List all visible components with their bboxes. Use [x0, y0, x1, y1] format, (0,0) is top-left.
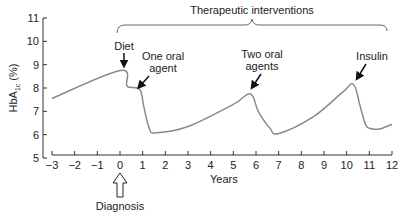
x-tick-label: 2 — [162, 159, 168, 171]
x-axis: −3−2−10123456789101112 — [46, 151, 398, 171]
x-tick-label: −1 — [91, 159, 104, 171]
therapeutic-bracket — [117, 19, 387, 33]
x-tick-label: 7 — [276, 159, 282, 171]
insulin-label: Insulin — [356, 50, 388, 62]
x-tick-label: −2 — [68, 159, 81, 171]
one-oral-label-2: agent — [149, 62, 177, 74]
one-oral-arrow-icon — [140, 76, 149, 86]
x-tick-label: 4 — [208, 159, 214, 171]
hba1c-curve — [52, 70, 392, 134]
x-tick-label: 0 — [117, 159, 123, 171]
y-tick-label: 11 — [28, 12, 39, 24]
x-tick-label: −3 — [46, 159, 59, 171]
y-tick-label: 9 — [33, 59, 39, 71]
x-tick-label: 6 — [253, 159, 259, 171]
x-tick-label: 12 — [386, 159, 398, 171]
two-oral-label: Two oral — [241, 48, 283, 60]
y-tick-label: 7 — [33, 105, 39, 117]
y-tick-label: 8 — [33, 82, 39, 94]
x-tick-label: 1 — [140, 159, 146, 171]
two-oral-arrow-icon — [253, 74, 261, 86]
two-oral-label-2: agents — [245, 60, 279, 72]
one-oral-label: One oral — [142, 50, 184, 62]
x-tick-label: 5 — [230, 159, 236, 171]
x-tick-label: 11 — [364, 159, 375, 171]
diet-label: Diet — [114, 40, 134, 52]
diagnosis-arrow-icon — [113, 173, 127, 197]
x-ticks: −3−2−10123456789101112 — [46, 151, 398, 171]
x-tick-label: 3 — [185, 159, 191, 171]
therapeutic-label: Therapeutic interventions — [190, 4, 314, 16]
insulin-arrow-icon — [358, 64, 366, 77]
x-tick-label: 8 — [298, 159, 304, 171]
y-tick-label: 10 — [27, 35, 39, 47]
y-tick-label: 5 — [33, 152, 39, 164]
x-tick-label: 9 — [321, 159, 327, 171]
y-axis-label: HbA1c (%) — [7, 64, 21, 113]
y-ticks: 567891011 — [27, 12, 47, 164]
y-axis: 567891011 — [27, 12, 47, 164]
hba1c-chart: 567891011 −3−2−10123456789101112 HbA1c (… — [0, 0, 402, 222]
x-axis-label: Years — [210, 173, 238, 185]
y-tick-label: 6 — [33, 129, 39, 141]
x-tick-label: 10 — [341, 159, 353, 171]
diagnosis-label: Diagnosis — [96, 200, 145, 212]
